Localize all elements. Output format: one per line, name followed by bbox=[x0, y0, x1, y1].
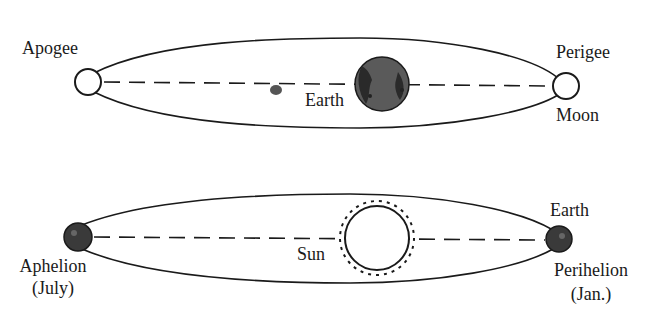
earth-icon bbox=[355, 57, 409, 111]
earth-major-axis bbox=[94, 237, 545, 240]
moon-apogee-icon bbox=[75, 69, 101, 95]
earth-aphelion-icon bbox=[64, 223, 92, 251]
moon-major-axis bbox=[104, 82, 552, 86]
perihelion-month-label: (Jan.) bbox=[546, 284, 636, 304]
earth-perihelion-icon bbox=[546, 226, 572, 252]
perihelion-label: Perihelion bbox=[546, 260, 636, 280]
sun-icon bbox=[340, 201, 414, 275]
perigee-label: Perigee bbox=[556, 42, 610, 62]
earth-label-top: Earth bbox=[305, 90, 344, 110]
focus-dot-icon bbox=[270, 85, 282, 95]
apogee-label: Apogee bbox=[22, 38, 78, 58]
earth-label-bottom: Earth bbox=[550, 200, 589, 220]
earth-orbit-ellipse bbox=[82, 194, 553, 283]
sun-label: Sun bbox=[297, 244, 325, 264]
aphelion-month-label: (July) bbox=[14, 278, 92, 298]
moon-perigee-icon bbox=[553, 73, 579, 99]
aphelion-label: Aphelion bbox=[14, 256, 92, 276]
moon-orbit-group bbox=[75, 38, 579, 128]
earth-orbit-group bbox=[64, 194, 572, 283]
moon-label: Moon bbox=[556, 105, 599, 125]
